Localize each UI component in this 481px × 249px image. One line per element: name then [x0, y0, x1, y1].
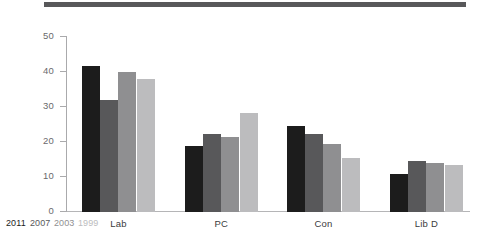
legend-item-2011: 2011	[6, 219, 26, 228]
bar-pc-1999	[240, 113, 258, 212]
y-axis-tick-label: 0	[14, 206, 54, 216]
bar-group-lab	[82, 36, 155, 212]
legend-item-2003: 2003	[54, 219, 74, 228]
bar-pc-2007	[203, 134, 221, 212]
bar-lab-1999	[137, 79, 155, 212]
bar-lab-2007	[100, 100, 118, 212]
bar-lib-d-2011	[390, 174, 408, 213]
bar-lib-d-2003	[426, 163, 444, 212]
x-axis-label-lab: Lab	[110, 218, 126, 229]
bar-pc-2003	[221, 137, 239, 212]
bar-group-con	[287, 36, 360, 212]
bar-con-2003	[323, 144, 341, 212]
chart-legend: 2011200720031999	[4, 219, 104, 233]
x-axis-label-con: Con	[314, 218, 332, 229]
y-axis-tick-label: 20	[14, 136, 54, 146]
bar-pc-2011	[185, 146, 203, 213]
bar-lab-2003	[118, 72, 136, 212]
bar-con-1999	[342, 158, 360, 212]
legend-item-1999: 1999	[78, 219, 98, 228]
x-axis-label-pc: PC	[215, 218, 229, 229]
bar-chart-figure: % share of vote 01020304050 201120072003…	[0, 0, 481, 249]
bar-lib-d-2007	[408, 161, 426, 212]
y-axis-tick-label: 10	[14, 171, 54, 181]
bar-group-pc	[185, 36, 258, 212]
bar-group-lib-d	[390, 36, 463, 212]
y-axis-tick-label: 50	[14, 31, 54, 41]
legend-item-2007: 2007	[30, 219, 50, 228]
bar-con-2011	[287, 126, 305, 212]
y-axis-tick	[60, 211, 67, 212]
y-axis-tick-label: 30	[14, 101, 54, 111]
bar-con-2007	[305, 134, 323, 212]
bar-lab-2011	[82, 66, 100, 212]
bar-lib-d-1999	[445, 165, 463, 212]
y-axis-tick-label: 40	[14, 66, 54, 76]
x-axis-label-lib-d: Lib D	[415, 218, 438, 229]
